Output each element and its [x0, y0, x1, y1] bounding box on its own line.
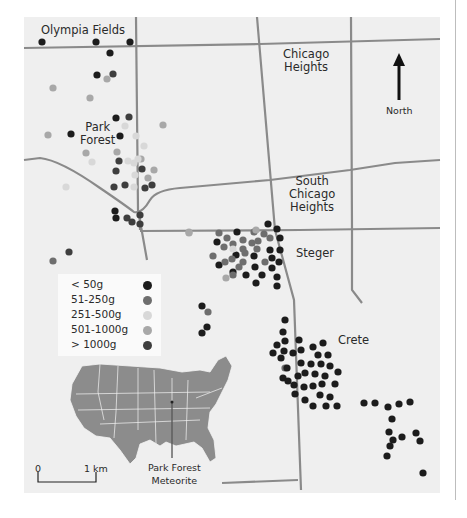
- label-line: Meteorite: [148, 474, 201, 487]
- north-arrow-icon: [393, 53, 405, 100]
- legend-item: < 50g: [71, 278, 103, 292]
- label-line: Park Forest: [148, 461, 201, 474]
- legend-label: 251-500g: [71, 308, 122, 320]
- legend-dot: [143, 326, 152, 335]
- legend-label: 501-1000g: [71, 323, 128, 335]
- label-line: Heights: [289, 201, 335, 214]
- label-steger: Steger: [296, 247, 334, 260]
- inset-label: Park Forest Meteorite: [148, 461, 201, 487]
- legend-item: 251-500g: [71, 308, 122, 322]
- scale-end-label: 1 km: [84, 462, 108, 475]
- legend-dot: [143, 281, 152, 290]
- legend-label: < 50g: [71, 278, 103, 290]
- label-chicago-heights: Chicago Heights: [283, 48, 329, 74]
- road-network: [0, 0, 467, 518]
- legend-dot: [143, 341, 152, 350]
- legend-item: 51-250g: [71, 293, 115, 307]
- label-park-forest: Park Forest: [80, 121, 115, 147]
- legend-label: > 1000g: [71, 338, 117, 350]
- label-line: Forest: [80, 134, 115, 147]
- label-crete: Crete: [338, 334, 369, 347]
- legend-item: > 1000g: [71, 338, 117, 352]
- legend: < 50g 51-250g 251-500g 501-1000g > 1000g: [58, 274, 161, 356]
- label-south-chicago-heights: South Chicago Heights: [289, 175, 335, 214]
- us-inset-map: [70, 356, 232, 464]
- legend-item: 501-1000g: [71, 323, 128, 337]
- north-label: North: [386, 104, 413, 117]
- legend-dot: [143, 311, 152, 320]
- legend-label: 51-250g: [71, 293, 115, 305]
- label-line: Heights: [283, 61, 329, 74]
- scale-start-label: 0: [35, 462, 41, 475]
- legend-dot: [143, 296, 152, 305]
- label-olympia-fields: Olympia Fields: [41, 24, 125, 37]
